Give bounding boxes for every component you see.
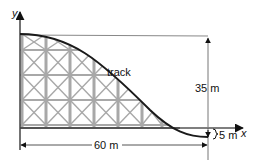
x-axis-label: x (240, 127, 247, 139)
height-label: 35 m (195, 82, 219, 94)
roller-coaster-diagram: y x track 35 m 5 m 60 m (0, 0, 253, 167)
scaffold-truss (20, 30, 200, 130)
dip-brace-icon (213, 129, 218, 139)
top-reference-line (20, 35, 208, 36)
width-label: 60 m (94, 139, 118, 151)
y-axis-label: y (11, 7, 19, 19)
dip-label: 5 m (219, 129, 237, 141)
track-label: track (107, 66, 131, 78)
